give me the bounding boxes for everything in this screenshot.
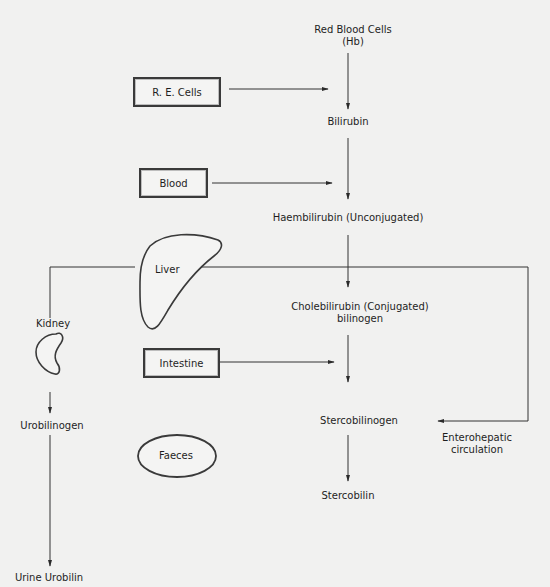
liver-label: Liver — [155, 264, 180, 275]
faeces-label: Faeces — [159, 450, 193, 461]
box-intestine: Intestine — [143, 348, 220, 378]
node-red-blood-cells: Red Blood Cells (Hb) — [314, 24, 391, 48]
node-stercobilinogen: Stercobilinogen — [320, 415, 398, 427]
enterohepatic-line2: circulation — [442, 444, 512, 456]
rbc-label: Red Blood Cells — [314, 24, 391, 36]
hb-label: (Hb) — [314, 36, 391, 48]
liver-icon — [140, 235, 222, 329]
cholebilirubin-label: Cholebilirubin (Conjugated) — [291, 301, 428, 313]
enterohepatic-line1: Enterohepatic — [442, 432, 512, 444]
loop-right-segment — [190, 267, 528, 421]
enterohepatic-circulation-label: Enterohepatic circulation — [442, 432, 512, 456]
box-re-cells: R. E. Cells — [133, 77, 221, 107]
box-blood: Blood — [139, 168, 208, 198]
loop-left-segment — [50, 267, 135, 318]
node-urine-urobilin: Urine Urobilin — [15, 572, 83, 584]
connector-lines — [0, 0, 550, 587]
node-haembilirubin: Haembilirubin (Unconjugated) — [273, 212, 424, 224]
kidney-label: Kidney — [36, 318, 70, 329]
bilirubin-pathway-diagram: Red Blood Cells (Hb) Bilirubin Haembilir… — [0, 0, 550, 587]
bilinogen-label: bilinogen — [291, 313, 428, 325]
node-urobilinogen: Urobilinogen — [20, 420, 83, 432]
node-stercobilin: Stercobilin — [322, 490, 375, 502]
kidney-icon — [36, 333, 63, 374]
node-bilirubin: Bilirubin — [327, 116, 368, 128]
node-cholebilirubin: Cholebilirubin (Conjugated) bilinogen — [291, 301, 428, 325]
